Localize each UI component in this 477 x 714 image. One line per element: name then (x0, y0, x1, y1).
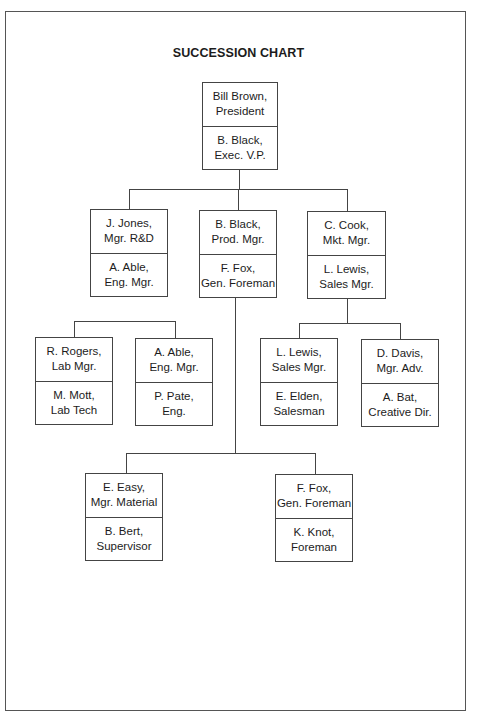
successor: F. Fox,Gen. Foreman (200, 254, 276, 298)
successor: K. Knot,Foreman (276, 518, 352, 562)
node-material: E. Easy,Mgr. Material B. Bert,Supervisor (85, 473, 163, 561)
successor: A. Bat,Creative Dir. (362, 383, 438, 427)
incumbent: A. Able,Eng. Mgr. (136, 339, 212, 382)
successor: A. Able,Eng. Mgr. (91, 253, 167, 297)
successor: B. Black,Exec. V.P. (203, 126, 277, 170)
connector (74, 321, 75, 337)
incumbent: L. Lewis,Sales Mgr. (261, 339, 337, 382)
connector (299, 323, 300, 338)
node-president: Bill Brown,President B. Black,Exec. V.P. (202, 82, 278, 170)
successor: B. Bert,Supervisor (86, 517, 162, 561)
connector (400, 323, 401, 339)
connector (175, 321, 176, 338)
node-advertising: D. Davis,Mgr. Adv. A. Bat,Creative Dir. (361, 339, 439, 427)
incumbent: B. Black,Prod. Mgr. (200, 211, 276, 254)
successor: P. Pate,Eng. (136, 382, 212, 426)
incumbent: Bill Brown,President (203, 83, 277, 126)
node-production: B. Black,Prod. Mgr. F. Fox,Gen. Foreman (199, 210, 277, 298)
connector (238, 189, 239, 210)
successor: M. Mott,Lab Tech (36, 381, 112, 425)
incumbent: D. Davis,Mgr. Adv. (362, 340, 438, 383)
connector (126, 453, 315, 454)
successor: E. Elden,Salesman (261, 382, 337, 426)
incumbent: J. Jones,Mgr. R&D (91, 210, 167, 253)
incumbent: F. Fox,Gen. Foreman (276, 475, 352, 518)
incumbent: C. Cook,Mkt. Mgr. (308, 212, 385, 255)
chart-title: SUCCESSION CHART (0, 46, 477, 60)
incumbent: R. Rogers,Lab Mgr. (36, 338, 112, 381)
node-rnd: J. Jones,Mgr. R&D A. Able,Eng. Mgr. (90, 209, 168, 297)
node-lab: R. Rogers,Lab Mgr. M. Mott,Lab Tech (35, 337, 113, 425)
connector (299, 323, 400, 324)
successor: L. Lewis,Sales Mgr. (308, 255, 385, 299)
node-engineering: A. Able,Eng. Mgr. P. Pate,Eng. (135, 338, 213, 426)
node-foreman: F. Fox,Gen. Foreman K. Knot,Foreman (275, 474, 353, 562)
connector (347, 189, 348, 211)
incumbent: E. Easy,Mgr. Material (86, 474, 162, 517)
node-sales: L. Lewis,Sales Mgr. E. Elden,Salesman (260, 338, 338, 426)
connector (74, 321, 175, 322)
connector (126, 453, 127, 473)
connector (129, 189, 130, 209)
connector (235, 298, 236, 453)
connector (315, 453, 316, 474)
node-marketing: C. Cook,Mkt. Mgr. L. Lewis,Sales Mgr. (307, 211, 386, 299)
connector (239, 169, 240, 189)
connector (347, 298, 348, 323)
